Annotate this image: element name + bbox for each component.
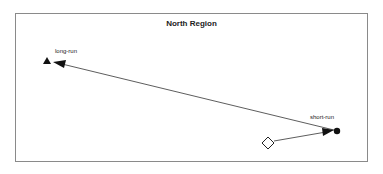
diamond-origin-icon	[262, 137, 274, 149]
arrow-shortrun-to-longrun	[62, 64, 334, 130]
arrow-origin-to-shortrun	[274, 132, 326, 141]
arrowhead-left-icon	[53, 60, 66, 68]
diagram-canvas	[0, 0, 383, 174]
circle-shortrun-icon	[334, 128, 340, 134]
triangle-longrun-icon	[43, 57, 51, 64]
